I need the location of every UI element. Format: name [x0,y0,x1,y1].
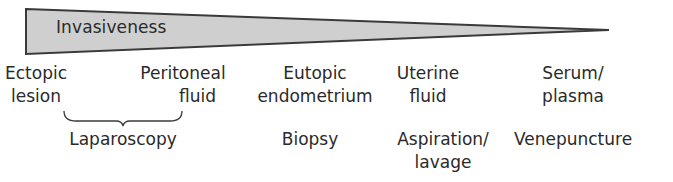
brace-icon [0,0,673,182]
method-venepuncture: Venepuncture [508,128,638,151]
method-laparoscopy: Laparoscopy [58,128,188,151]
method-biopsy: Biopsy [255,128,365,151]
method-aspiration-lavage: Aspiration/ lavage [383,128,503,174]
